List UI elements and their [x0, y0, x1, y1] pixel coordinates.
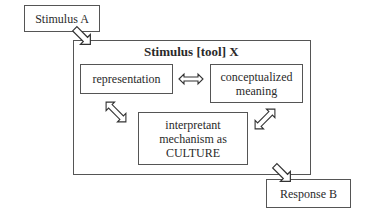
double-arrow-right-diagonal-icon — [251, 105, 279, 133]
double-arrow-horizontal-icon — [179, 74, 203, 84]
arrows-layer — [0, 0, 365, 222]
arrow-tool-to-response-icon — [270, 161, 295, 186]
double-arrow-left-diagonal-icon — [102, 98, 130, 126]
arrow-stimulus-to-tool-icon — [70, 24, 95, 49]
